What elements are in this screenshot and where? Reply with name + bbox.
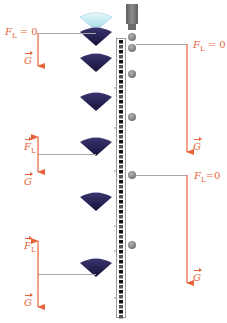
label-ball-lift-zero-2: FL=0: [194, 171, 220, 184]
measuring-ruler: [114, 39, 126, 319]
label-gravity-2: G: [24, 177, 32, 187]
label-value: = 0: [17, 26, 38, 37]
label-subscript: L: [31, 246, 36, 254]
ball-3: [128, 70, 136, 78]
cone-2: [80, 54, 112, 73]
cone-3: [80, 93, 112, 112]
ball-1: [128, 33, 136, 41]
left-leader-lines: [38, 34, 96, 275]
label-force-symbol: F: [5, 26, 12, 37]
label-gravity-3: G: [24, 298, 32, 308]
ball-6: [128, 241, 136, 249]
free-fall-diagram: FL = 0 G FL G FL G FL = 0 G FL=0 G: [0, 0, 227, 323]
cone-1: [80, 28, 112, 47]
label-force-symbol: G: [24, 298, 32, 308]
label-lift-zero-1: FL = 0: [5, 27, 38, 40]
label-force-symbol: G: [24, 56, 32, 66]
label-value: =0: [206, 170, 221, 181]
label-force-symbol: G: [24, 177, 32, 187]
label-force-symbol: F: [24, 241, 31, 251]
label-ball-lift-zero-1: FL = 0: [193, 40, 226, 53]
label-force-symbol: F: [24, 142, 31, 152]
right-leader-lines: [136, 45, 187, 176]
label-force-symbol: G: [193, 142, 201, 152]
label-lift-2: FL: [24, 142, 36, 155]
cone-5: [80, 193, 112, 212]
balls: [128, 33, 136, 249]
label-force-symbol: F: [194, 170, 201, 181]
ball-2: [128, 44, 136, 52]
ball-5: [128, 171, 136, 179]
label-lift-3: FL: [24, 241, 36, 254]
label-force-symbol: F: [193, 39, 200, 50]
label-force-symbol: G: [193, 273, 201, 283]
ball-dropper: [126, 4, 138, 30]
label-value: = 0: [205, 39, 226, 50]
label-ball-gravity-1: G: [193, 142, 201, 152]
cone-4: [80, 138, 112, 157]
label-gravity-1: G: [24, 56, 32, 66]
label-subscript: L: [31, 147, 36, 155]
label-ball-gravity-2: G: [193, 273, 201, 283]
ball-4: [128, 113, 136, 121]
